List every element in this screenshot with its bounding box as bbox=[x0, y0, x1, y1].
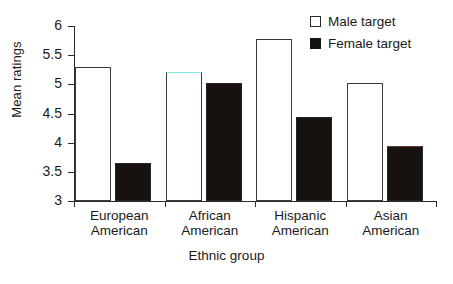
bar-chart: Mean ratings 33.544.555.56 EuropeanAmeri… bbox=[0, 0, 453, 284]
category-label-line: American bbox=[165, 223, 256, 238]
bar-female bbox=[387, 146, 423, 201]
bar-male bbox=[256, 39, 292, 201]
y-axis-tick-label: 4 bbox=[18, 135, 62, 149]
y-axis-tick-label: 3.5 bbox=[18, 164, 62, 178]
category-label-line: European bbox=[74, 208, 165, 223]
category-label-line: Asian bbox=[346, 208, 437, 223]
x-axis-tick bbox=[74, 201, 75, 207]
bar-male bbox=[166, 72, 202, 202]
category-label-line: American bbox=[255, 223, 346, 238]
x-axis-tick bbox=[255, 201, 256, 207]
x-axis-category-label: AsianAmerican bbox=[346, 208, 437, 238]
x-axis-title: Ethnic group bbox=[0, 248, 453, 263]
y-axis-tick-label: 6 bbox=[18, 18, 62, 32]
legend: Male target Female target bbox=[310, 12, 411, 56]
y-axis-tick-label: 5.5 bbox=[18, 47, 62, 61]
x-axis-tick bbox=[436, 201, 437, 207]
y-axis-tick-label: 5 bbox=[18, 76, 62, 90]
legend-label-male: Male target bbox=[328, 14, 396, 29]
legend-item-male: Male target bbox=[310, 12, 411, 31]
x-axis-category-label: AfricanAmerican bbox=[165, 208, 256, 238]
category-label-line: American bbox=[74, 223, 165, 238]
legend-item-female: Female target bbox=[310, 34, 411, 53]
x-axis-category-label: HispanicAmerican bbox=[255, 208, 346, 238]
y-axis-tick-label: 4.5 bbox=[18, 106, 62, 120]
filled-square-icon bbox=[310, 38, 321, 49]
bar-female bbox=[206, 83, 242, 201]
legend-label-female: Female target bbox=[328, 36, 411, 51]
x-axis-category-label: EuropeanAmerican bbox=[74, 208, 165, 238]
open-square-icon bbox=[310, 16, 321, 27]
category-label-line: African bbox=[165, 208, 256, 223]
bar-male bbox=[347, 83, 383, 201]
category-label-line: Hispanic bbox=[255, 208, 346, 223]
bar-female bbox=[115, 163, 151, 201]
bar-female bbox=[296, 117, 332, 201]
bar-male bbox=[75, 67, 111, 201]
category-label-line: American bbox=[346, 223, 437, 238]
x-axis-tick bbox=[165, 201, 166, 207]
x-axis-tick bbox=[346, 201, 347, 207]
y-axis-tick-label: 3 bbox=[18, 193, 62, 207]
